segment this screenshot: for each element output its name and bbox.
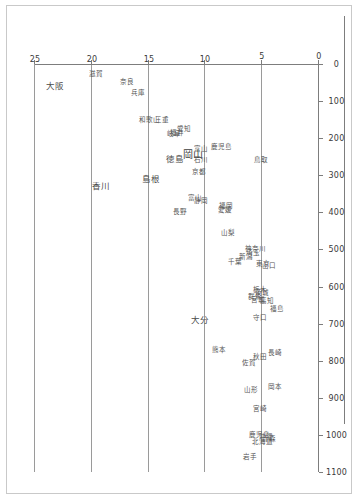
data-point-label: 和歌山 (138, 116, 159, 123)
value-tick (319, 175, 323, 176)
category-tick-label: 20 (86, 54, 97, 63)
value-tick (319, 397, 323, 398)
data-point-label: 山梨 (221, 229, 235, 236)
value-tick (319, 286, 323, 287)
data-point-label: 香川 (91, 182, 109, 191)
value-tick (319, 101, 323, 102)
data-point-label: 高知 (259, 298, 273, 305)
data-point-label: 岐阜 (166, 131, 180, 138)
value-axis-spine (35, 64, 319, 65)
data-point-label: 京都 (191, 168, 205, 175)
value-tick (319, 434, 323, 435)
category-tick-label: 0 (316, 52, 321, 61)
value-tick-label: 800 (328, 356, 344, 365)
value-tick-label: 700 (328, 319, 344, 328)
value-tick-label: 900 (328, 393, 344, 402)
data-point-label: 福島 (269, 305, 283, 312)
data-point-label: 熊本 (212, 346, 226, 353)
value-tick (319, 323, 323, 324)
value-tick-label: 1000 (325, 430, 346, 439)
chart-page: 010020030040050060070080090010001100 051… (0, 0, 359, 501)
category-tick-label: 5 (259, 52, 264, 61)
gridline (147, 64, 148, 472)
gridline (34, 64, 35, 472)
data-point-label: 富山 (188, 194, 202, 201)
value-tick (319, 138, 323, 139)
value-tick (319, 212, 323, 213)
data-point-label: 岩手 (242, 453, 256, 460)
category-tick-label: 10 (200, 54, 211, 63)
data-point-label: 奈良 (120, 78, 134, 85)
data-point-label: 富山 (193, 145, 207, 152)
data-point-label: 愛媛 (217, 206, 231, 213)
data-point-label: 島根 (141, 174, 159, 183)
data-point-label: 鹿児島 (210, 144, 231, 151)
value-tick (319, 472, 323, 473)
value-tick-label: 200 (328, 133, 344, 142)
chart-stage: 010020030040050060070080090010001100 051… (15, 16, 345, 486)
value-tick (319, 249, 323, 250)
data-point-label: 鳥取 (254, 157, 268, 164)
data-point-label: 徳島 (165, 154, 183, 163)
value-tick (319, 360, 323, 361)
data-point-label: 長崎 (267, 349, 281, 356)
value-tick-label: 1100 (325, 467, 346, 476)
value-tick-label: 100 (328, 96, 344, 105)
value-tick-label: 0 (333, 59, 338, 68)
value-tick (319, 64, 323, 65)
value-tick-label: 400 (328, 207, 344, 216)
data-point-label: 千葉 (227, 259, 241, 266)
gridline (90, 64, 91, 472)
data-point-label: 大阪 (46, 81, 64, 90)
data-point-label: 山形 (243, 387, 257, 394)
data-point-label: 兵庫 (131, 89, 145, 96)
data-point-label: 石川 (193, 156, 207, 163)
data-point-label: 滋賀 (89, 71, 103, 78)
data-point-label: 岡本 (267, 383, 281, 390)
value-axis-line-top (318, 64, 319, 472)
data-point-label: 北海道 (251, 439, 272, 446)
value-tick-label: 600 (328, 282, 344, 291)
category-tick-label: 25 (29, 54, 40, 63)
value-tick-label: 500 (328, 244, 344, 253)
gridline (204, 64, 205, 472)
category-tick-label: 15 (143, 54, 154, 63)
value-tick-label: 300 (328, 170, 344, 179)
data-point-label: 山口 (262, 262, 276, 269)
data-point-label: 長野 (173, 209, 187, 216)
data-point-label: 宮崎 (252, 405, 266, 412)
data-point-label: 守口 (252, 314, 266, 321)
data-point-label: 大分 (190, 315, 208, 324)
data-point-label: 佐賀 (241, 359, 255, 366)
